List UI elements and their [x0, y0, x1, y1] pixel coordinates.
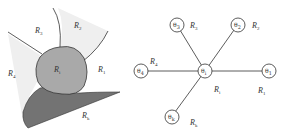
edge-i-2 — [205, 30, 234, 71]
boundary-line-r3-r2 — [53, 8, 60, 47]
label-rk: Rk — [81, 111, 90, 121]
label-r1: R1 — [97, 65, 106, 75]
edge-i-k — [175, 71, 205, 112]
region-ri — [36, 46, 87, 94]
edge-label-r4: R4 — [149, 57, 158, 67]
graph-nodes: θi θ3 θ2 θ4 θ1 θk R3 R2 R4 Ri R1 Rk — [134, 18, 276, 128]
edge-label-rk: Rk — [189, 118, 198, 128]
figure: R3 R2 R4 Ri R1 Rk θi θ3 θ2 θ4 θ1 θk R3 R… — [0, 0, 284, 137]
edge-label-r1: R1 — [257, 86, 266, 96]
label-r3: R3 — [34, 26, 43, 36]
edge-label-ri: Ri — [213, 85, 221, 95]
edge-label-r3: R3 — [189, 21, 198, 31]
region-map: R3 R2 R4 Ri R1 Rk — [7, 8, 120, 128]
edge-label-r2: R2 — [251, 21, 260, 31]
